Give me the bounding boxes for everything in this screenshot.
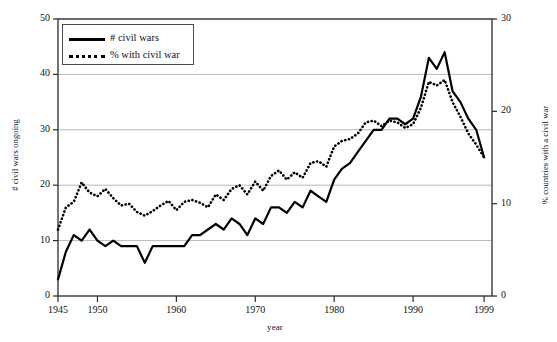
legend-item-percent-with-civil-war: % with civil war bbox=[69, 46, 187, 63]
y-axis-left-tick-label: 20 bbox=[24, 178, 50, 189]
legend-item-civil-wars: # civil wars bbox=[69, 29, 187, 46]
x-axis-tick-label: 1945 bbox=[38, 304, 78, 315]
chart-legend: # civil wars % with civil war bbox=[62, 24, 194, 65]
y-axis-left-tick-label: 10 bbox=[24, 234, 50, 245]
x-axis-tick-label: 1980 bbox=[314, 304, 354, 315]
y-axis-left-tick-label: 30 bbox=[24, 123, 50, 134]
y-axis-right-tick-label: 10 bbox=[501, 197, 527, 208]
y-axis-right-tick-label: 20 bbox=[501, 104, 527, 115]
x-axis-tick-label: 1990 bbox=[393, 304, 433, 315]
x-axis-tick-label: 1999 bbox=[464, 304, 504, 315]
y-axis-left-tick-label: 40 bbox=[24, 67, 50, 78]
legend-swatch-solid-line-icon bbox=[69, 38, 105, 41]
legend-label-civil-wars: # civil wars bbox=[110, 32, 159, 43]
x-axis-tick-label: 1950 bbox=[77, 304, 117, 315]
y-axis-left-label: # civil wars ongoing bbox=[10, 80, 20, 230]
y-axis-right-tick-label: 0 bbox=[501, 289, 527, 300]
series-line-civil-wars bbox=[58, 52, 484, 279]
x-axis-tick-label: 1970 bbox=[235, 304, 275, 315]
x-axis-tick-label: 1960 bbox=[156, 304, 196, 315]
y-axis-left-tick-label: 50 bbox=[24, 12, 50, 23]
legend-label-percent-with-civil-war: % with civil war bbox=[110, 49, 180, 60]
x-axis-label: year bbox=[58, 322, 492, 332]
legend-swatch-dotted-line-icon bbox=[69, 55, 105, 58]
y-axis-left-tick-label: 0 bbox=[24, 289, 50, 300]
y-axis-right-tick-label: 30 bbox=[501, 12, 527, 23]
chart-figure: # civil wars ongoing % countries with a … bbox=[0, 0, 557, 342]
y-axis-right-label: % countries with a civil war bbox=[540, 80, 550, 230]
